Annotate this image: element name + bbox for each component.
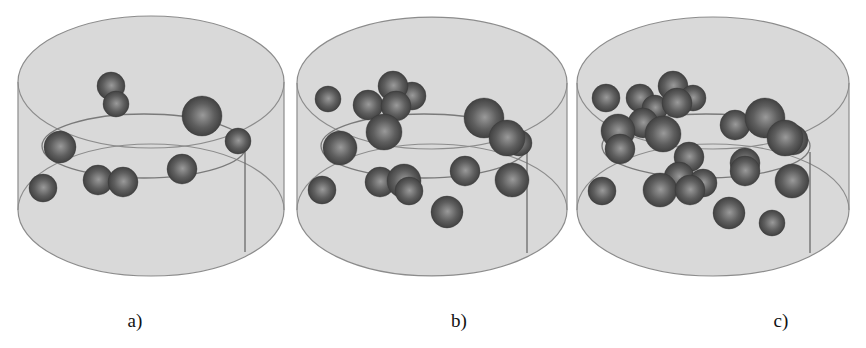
sphere: [775, 164, 809, 198]
panel-a: [18, 16, 284, 276]
caption-c: c): [774, 311, 789, 330]
sphere: [182, 96, 222, 136]
panel-b: [297, 17, 567, 276]
sphere: [592, 84, 620, 112]
sphere: [662, 88, 692, 118]
sphere: [44, 131, 76, 163]
sphere: [767, 120, 803, 156]
sphere: [323, 131, 357, 165]
sphere: [643, 173, 677, 207]
sphere: [108, 167, 138, 197]
sphere: [315, 86, 341, 112]
sphere: [675, 175, 705, 205]
sphere: [495, 163, 529, 197]
figure-canvas: [0, 0, 866, 348]
sphere: [103, 91, 129, 117]
caption-a: a): [128, 311, 143, 330]
sphere: [366, 114, 402, 150]
sphere: [605, 134, 635, 164]
sphere: [29, 174, 57, 202]
sphere: [395, 177, 423, 205]
panel-c: [577, 17, 849, 276]
sphere: [308, 176, 336, 204]
sphere: [450, 156, 480, 186]
sphere: [588, 177, 616, 205]
sphere: [431, 196, 463, 228]
sphere: [713, 197, 745, 229]
sphere: [645, 116, 681, 152]
sphere: [167, 154, 197, 184]
sphere: [489, 120, 525, 156]
sphere: [759, 210, 785, 236]
sphere: [730, 156, 760, 186]
caption-b: b): [451, 311, 467, 330]
sphere: [225, 128, 251, 154]
